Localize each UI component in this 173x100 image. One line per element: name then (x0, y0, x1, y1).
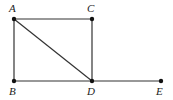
label-E: E (156, 86, 163, 97)
point-E (159, 79, 163, 83)
point-B (12, 79, 16, 83)
point-C (90, 17, 94, 21)
label-A: A (9, 3, 16, 14)
label-B: B (9, 86, 16, 97)
geometry-diagram: A C B D E (0, 0, 173, 100)
label-C: C (87, 3, 94, 14)
segment-AD (14, 19, 92, 81)
point-A (12, 17, 16, 21)
point-D (90, 79, 94, 83)
label-D: D (87, 86, 95, 97)
